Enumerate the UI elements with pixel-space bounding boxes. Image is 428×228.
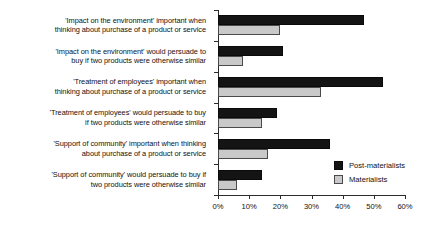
x-axis-tick bbox=[343, 195, 344, 199]
category-label-line: 'Impact on the environment' would persua… bbox=[0, 47, 206, 57]
category-label: 'Impact on the environment' important wh… bbox=[0, 16, 206, 35]
x-axis-tick-label: 10% bbox=[242, 202, 257, 212]
category-label-line: two products were otherwise similar bbox=[0, 180, 206, 190]
y-axis-tick bbox=[214, 133, 218, 134]
category-label: 'Treatment of employees' important whent… bbox=[0, 77, 206, 96]
x-axis-tick bbox=[405, 195, 406, 199]
bar-post-materialists bbox=[218, 108, 277, 118]
bar-materialists bbox=[218, 25, 280, 35]
bar-post-materialists bbox=[218, 170, 262, 180]
legend-item: Post-materialists bbox=[334, 158, 405, 172]
bar-post-materialists bbox=[218, 46, 283, 56]
x-axis-tick-label: 40% bbox=[335, 202, 350, 212]
bar-post-materialists bbox=[218, 139, 330, 149]
x-axis-tick-label: 30% bbox=[304, 202, 319, 212]
x-axis-tick-label: 50% bbox=[366, 202, 381, 212]
category-label-line: thinking about purchase of a product or … bbox=[0, 25, 206, 35]
bar-post-materialists bbox=[218, 77, 383, 87]
category-label-line: 'Impact on the environment' important wh… bbox=[0, 16, 206, 26]
category-label-line: 'Support of community' important when th… bbox=[0, 139, 206, 149]
y-axis-tick bbox=[214, 164, 218, 165]
y-axis-line bbox=[218, 10, 219, 195]
bar-materialists bbox=[218, 149, 268, 159]
x-axis-tick-label: 20% bbox=[273, 202, 288, 212]
x-axis-tick bbox=[280, 195, 281, 199]
x-axis-tick bbox=[374, 195, 375, 199]
category-label-line: buy if two products were otherwise simil… bbox=[0, 56, 206, 66]
x-axis-tick bbox=[249, 195, 250, 199]
category-label: 'Support of community' important when th… bbox=[0, 139, 206, 158]
y-axis-tick bbox=[214, 72, 218, 73]
x-axis-tick-label: 60% bbox=[397, 202, 412, 212]
y-axis-tick bbox=[214, 103, 218, 104]
legend-swatch-post bbox=[334, 161, 343, 170]
legend-swatch-mat bbox=[334, 175, 343, 184]
legend-item: Materialists bbox=[334, 172, 405, 186]
x-axis-tick bbox=[218, 195, 219, 199]
bar-materialists bbox=[218, 118, 262, 128]
legend-label: Post-materialists bbox=[349, 161, 405, 170]
category-label-line: thinking about purchase of a product or … bbox=[0, 87, 206, 97]
chart-legend: Post-materialistsMaterialists bbox=[334, 158, 405, 186]
category-label-line: 'Support of community' would persuade to… bbox=[0, 170, 206, 180]
y-axis-tick bbox=[214, 10, 218, 11]
x-axis-tick-label: 0% bbox=[213, 202, 224, 212]
bar-materialists bbox=[218, 87, 321, 97]
category-label: 'Support of community' would persuade to… bbox=[0, 170, 206, 189]
bar-materialists bbox=[218, 180, 237, 190]
category-label-line: about purchase of a product or service bbox=[0, 149, 206, 159]
bar-post-materialists bbox=[218, 15, 364, 25]
category-label: 'Impact on the environment' would persua… bbox=[0, 47, 206, 66]
category-label-line: 'Treatment of employees' would persuade … bbox=[0, 108, 206, 118]
category-label-line: if two products were otherwise similar bbox=[0, 118, 206, 128]
category-label: 'Treatment of employees' would persuade … bbox=[0, 108, 206, 127]
legend-label: Materialists bbox=[349, 175, 387, 184]
y-axis-tick bbox=[214, 41, 218, 42]
bar-chart: 'Impact on the environment' important wh… bbox=[0, 0, 428, 228]
category-label-line: 'Treatment of employees' important when bbox=[0, 77, 206, 87]
bar-materialists bbox=[218, 56, 243, 66]
x-axis-tick bbox=[312, 195, 313, 199]
